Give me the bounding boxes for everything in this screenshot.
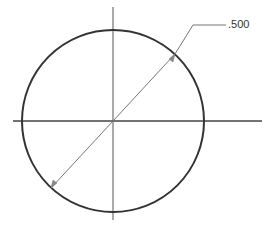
- arrowhead-lower: [51, 180, 57, 188]
- drawing-canvas: [0, 0, 272, 230]
- arrowhead-upper: [169, 54, 175, 62]
- dimension-leader: [175, 25, 226, 54]
- dimension-label: .500: [228, 19, 249, 30]
